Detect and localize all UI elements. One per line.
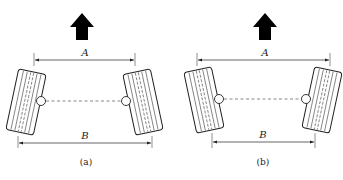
label-a-top: A [81,47,88,58]
label-a-bottom: B [81,130,88,141]
wheel-alignment-diagram [0,0,343,180]
diagram-a [6,13,163,148]
label-b-top: A [261,47,268,58]
label-b-bottom: B [259,129,266,140]
forward-arrow-icon [253,13,277,40]
right-hub [302,95,311,104]
forward-arrow-icon [70,13,94,40]
left-hub [215,95,224,104]
left-hub [37,97,46,106]
diagram-b [184,13,342,148]
right-hub [122,97,131,106]
caption-a: (a) [80,157,92,167]
caption-b: (b) [257,157,270,167]
